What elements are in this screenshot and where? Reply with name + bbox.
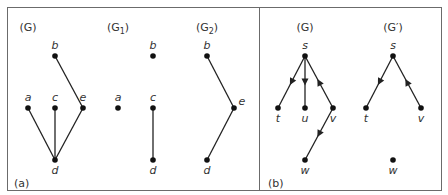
graph-title-end: ) bbox=[32, 21, 36, 34]
node-u bbox=[302, 105, 308, 111]
graph-title-main: (G bbox=[19, 21, 32, 34]
node-label-b: b bbox=[204, 40, 211, 51]
node-label-w: w bbox=[389, 165, 398, 176]
edge-e-d bbox=[207, 108, 234, 160]
node-w bbox=[390, 157, 396, 163]
node-label-s: s bbox=[390, 40, 396, 51]
node-label-e: e bbox=[80, 92, 87, 103]
node-label-c: c bbox=[150, 92, 156, 103]
edge-e-d bbox=[55, 108, 83, 160]
graph-title: (G2) bbox=[196, 22, 218, 36]
node-label-b: b bbox=[52, 40, 59, 51]
node-c bbox=[150, 105, 156, 111]
graph-title-main: (G bbox=[196, 21, 209, 34]
panel-frame-a bbox=[8, 8, 260, 191]
graph-title: (G′) bbox=[383, 22, 403, 33]
node-b bbox=[204, 53, 210, 59]
node-c bbox=[52, 105, 58, 111]
node-s bbox=[302, 53, 308, 59]
node-label-a: a bbox=[115, 92, 122, 103]
node-t bbox=[363, 105, 369, 111]
node-e bbox=[80, 105, 86, 111]
panel-caption-b: (b) bbox=[268, 178, 284, 189]
graph-title: (G) bbox=[296, 22, 313, 33]
node-a bbox=[115, 105, 121, 111]
node-label-v: v bbox=[330, 113, 337, 124]
node-t bbox=[275, 105, 281, 111]
panel-frame-b bbox=[260, 8, 442, 191]
graph-0 bbox=[25, 53, 86, 163]
graph-title-end: ) bbox=[399, 21, 403, 34]
edge-a-d bbox=[28, 108, 55, 160]
node-label-b: b bbox=[150, 40, 157, 51]
node-s bbox=[390, 53, 396, 59]
edge-b-e bbox=[207, 56, 234, 108]
node-label-c: c bbox=[52, 92, 58, 103]
graph-3 bbox=[275, 53, 336, 163]
node-w bbox=[302, 157, 308, 163]
graph-title-main: (G bbox=[296, 21, 309, 34]
graph-title-end: ) bbox=[214, 21, 218, 34]
node-b bbox=[150, 53, 156, 59]
node-label-s: s bbox=[302, 40, 308, 51]
graph-4 bbox=[363, 53, 424, 163]
arrowhead-icon bbox=[302, 79, 309, 86]
graph-2 bbox=[204, 53, 237, 163]
node-e bbox=[231, 105, 237, 111]
node-v bbox=[418, 105, 424, 111]
node-d bbox=[52, 157, 58, 163]
graph-title-main: (G′ bbox=[383, 21, 398, 34]
graph-title-end: ) bbox=[309, 21, 313, 34]
node-label-d: d bbox=[150, 165, 157, 176]
node-label-t: t bbox=[276, 113, 280, 124]
node-label-t: t bbox=[364, 113, 368, 124]
diagram-canvas bbox=[0, 0, 448, 195]
graph-title-main: (G bbox=[107, 21, 120, 34]
graph-title-end: ) bbox=[125, 21, 129, 34]
node-label-e: e bbox=[239, 96, 246, 107]
node-d bbox=[150, 157, 156, 163]
node-a bbox=[25, 105, 31, 111]
node-d bbox=[204, 157, 210, 163]
node-label-d: d bbox=[204, 165, 211, 176]
node-label-u: u bbox=[302, 113, 309, 124]
node-label-w: w bbox=[301, 165, 310, 176]
graph-title: (G1) bbox=[107, 22, 129, 36]
node-label-d: d bbox=[52, 165, 59, 176]
node-label-v: v bbox=[418, 113, 425, 124]
graph-title: (G) bbox=[19, 22, 36, 33]
node-v bbox=[330, 105, 336, 111]
node-b bbox=[52, 53, 58, 59]
node-label-a: a bbox=[25, 92, 32, 103]
graph-1 bbox=[115, 53, 156, 163]
panel-caption-a: (a) bbox=[14, 178, 29, 189]
